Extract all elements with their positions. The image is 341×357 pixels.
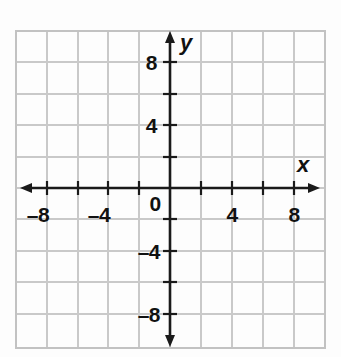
x-tick-label-8: 8 (288, 203, 300, 226)
coordinate-plane-svg: –8 –4 4 8 8 4 –4 –8 0 x y (0, 0, 341, 357)
y-tick-label-neg4: –4 (138, 240, 161, 263)
y-tick-label-4: 4 (146, 114, 158, 137)
x-axis-label: x (296, 152, 310, 177)
y-tick-label-neg8: –8 (138, 303, 161, 326)
x-tick-label-neg8: –8 (27, 203, 50, 226)
origin-label: 0 (149, 192, 160, 215)
y-tick-label-8: 8 (146, 51, 158, 74)
y-axis-label: y (179, 30, 194, 55)
x-tick-label-4: 4 (226, 203, 238, 226)
x-tick-label-neg4: –4 (88, 203, 111, 226)
coordinate-plane-figure: –8 –4 4 8 8 4 –4 –8 0 x y (0, 0, 341, 357)
